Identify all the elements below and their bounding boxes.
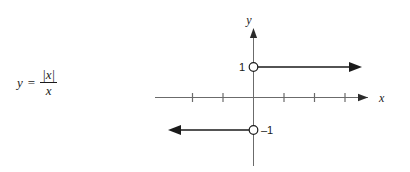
positive-branch-arrowhead (349, 62, 362, 72)
open-circle-at-y-positive-one (249, 63, 258, 72)
coordinate-plot: y x 1 –1 (0, 0, 410, 172)
series-negative-branch (168, 125, 249, 135)
open-circle-at-y-negative-one (249, 126, 258, 135)
label-positive-one: 1 (239, 61, 245, 73)
label-negative-one: –1 (261, 124, 273, 136)
negative-branch-arrowhead (168, 125, 181, 135)
series-positive-branch (258, 62, 362, 72)
x-axis (155, 94, 368, 101)
y-axis-label: y (245, 13, 252, 27)
x-axis-arrowhead (358, 94, 368, 101)
figure-canvas: y = |x| x (0, 0, 410, 172)
y-axis-arrowhead (250, 28, 257, 38)
x-axis-label: x (378, 91, 385, 105)
